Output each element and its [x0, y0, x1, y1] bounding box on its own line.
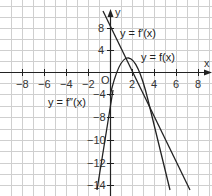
y-axis-arrow-icon	[108, 9, 114, 17]
origin-label: O	[101, 74, 110, 86]
x-tick-label: −4	[60, 78, 73, 90]
x-axis-label: x	[204, 57, 210, 69]
y-tick-label: −10	[87, 134, 106, 146]
x-tick-label: 8	[195, 78, 201, 90]
f-curve	[110, 58, 170, 190]
f-label: y = f(x)	[141, 51, 175, 63]
y-tick-label: 8	[98, 22, 104, 34]
y-tick-label: 4	[98, 44, 104, 56]
y-tick-label: −14	[87, 179, 106, 191]
grid	[0, 0, 212, 196]
x-axis-arrow-icon	[204, 70, 212, 76]
x-tick-label: 6	[173, 78, 179, 90]
plot-area: −8 −6 −4 −2 2 4 6 8 8 4 −4 −8 −10 −12 −1…	[0, 0, 212, 196]
y-axis-label: y	[115, 6, 121, 18]
y-tick-label: −4	[93, 88, 106, 100]
x-tick-label: 4	[151, 78, 157, 90]
x-tick-label: −6	[38, 78, 51, 90]
y-tick-label: −12	[87, 157, 106, 169]
x-tick-label: −8	[16, 78, 29, 90]
fdoubleprime-label: y = f″(x)	[48, 96, 86, 108]
fprime-label: y = f′(x)	[120, 27, 156, 39]
chart: −8 −6 −4 −2 2 4 6 8 8 4 −4 −8 −10 −12 −1…	[0, 0, 212, 196]
y-tick-label: −8	[93, 111, 106, 123]
x-tick-label: 2	[129, 78, 135, 90]
